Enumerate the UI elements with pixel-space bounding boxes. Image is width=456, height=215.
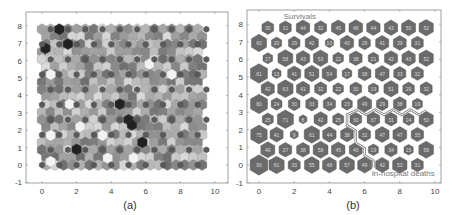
hit-count-label: 58 (318, 147, 324, 153)
hit-count-label: 47 (397, 132, 403, 138)
hit-count-label: 31 (415, 40, 421, 46)
hit-count-label: 38 (397, 101, 403, 107)
x-tick-label: 8 (398, 187, 403, 196)
map-unit-node (169, 147, 175, 153)
hit-count-label: 38 (353, 56, 359, 62)
map-unit-node (169, 117, 175, 123)
hit-count-label: 43 (406, 56, 412, 62)
hit-count-label: 41 (291, 71, 297, 77)
map-unit-node (160, 71, 166, 77)
hit-count-label: 25 (335, 117, 341, 123)
hit-count-label: 52 (423, 25, 429, 31)
y-tick-label: 6 (18, 57, 23, 66)
hit-count-label: 38 (300, 147, 306, 153)
hit-count-label: 24 (274, 101, 280, 107)
hit-count-label: 17 (265, 56, 271, 62)
map-unit-node (195, 162, 201, 168)
map-unit-node (143, 132, 149, 138)
y-tick-label: 0 (18, 161, 23, 170)
y-tick-label: 0 (239, 161, 244, 170)
y-tick-label: 4 (239, 91, 244, 100)
map-unit-node (186, 147, 192, 153)
hit-count-label: 19 (371, 86, 377, 92)
map-unit-node (204, 56, 210, 62)
map-unit-node (57, 71, 63, 77)
map-unit-node (126, 132, 132, 138)
map-unit-node (57, 41, 63, 47)
hit-count-label: 21 (371, 56, 377, 62)
hit-count-label: 57 (344, 162, 350, 168)
hit-count-label: 54 (327, 71, 333, 77)
panel-b-hitmap: -10123456780246810(b)3031443245464443505… (228, 0, 456, 215)
map-unit-node (204, 117, 210, 123)
hit-count-label: 33 (291, 162, 297, 168)
map-unit-node (117, 56, 123, 62)
map-unit-node (91, 101, 97, 107)
map-unit-node (82, 26, 88, 32)
map-unit-node (204, 147, 210, 153)
map-unit-node (134, 86, 140, 92)
hit-count-label: 25 (265, 117, 271, 123)
map-unit-node (82, 117, 88, 123)
hit-count-label: 52 (423, 56, 429, 62)
hit-count-label: 29 (362, 40, 368, 46)
hit-count-label: 22 (335, 56, 341, 62)
hit-count-label: 30 (353, 117, 359, 123)
map-unit-node (48, 26, 54, 32)
hit-count-label: 9 (293, 132, 296, 138)
hit-count-label: 44 (327, 132, 333, 138)
hit-count-label: 43 (388, 25, 394, 31)
map-unit-node (126, 71, 132, 77)
hit-count-label: 53 (397, 162, 403, 168)
map-unit-node (74, 132, 80, 138)
map-unit-node (48, 147, 54, 153)
hit-count-label: 31 (388, 117, 394, 123)
map-unit-node (117, 117, 123, 123)
map-unit-node (126, 41, 132, 47)
hit-count-label: 61 (274, 162, 280, 168)
hit-count-label: 32 (318, 86, 324, 92)
map-unit-node (152, 26, 158, 32)
hit-count-label: 42 (265, 86, 271, 92)
map-unit-node (160, 41, 166, 47)
map-unit-node (178, 101, 184, 107)
map-unit-node (117, 26, 123, 32)
y-tick-label: 1 (18, 144, 23, 153)
y-tick-label: 2 (18, 126, 23, 135)
hit-count-label: 51 (309, 71, 315, 77)
hit-count-label: 10 (327, 40, 333, 46)
map-unit-node (178, 162, 184, 168)
map-unit-node (39, 71, 45, 77)
map-unit-node (152, 56, 158, 62)
map-unit-node (74, 162, 80, 168)
hit-count-label: 38 (344, 132, 350, 138)
map-unit-node (126, 162, 132, 168)
map-unit-node (117, 147, 123, 153)
hit-count-label: 56 (423, 147, 429, 153)
hit-count-label: 29 (291, 40, 297, 46)
y-tick-label: 7 (239, 38, 244, 47)
x-tick-label: 6 (144, 187, 149, 196)
hit-count-label: 34 (327, 101, 333, 107)
map-unit-node (57, 132, 63, 138)
hit-count-label: 49 (265, 147, 271, 153)
map-unit-node (48, 56, 54, 62)
panel-caption: (a) (123, 199, 136, 211)
hit-count-label: 24 (406, 117, 412, 123)
hit-count-label: 48 (327, 162, 333, 168)
map-unit-node (91, 132, 97, 138)
map-unit-node (39, 132, 45, 138)
map-unit-node (186, 56, 192, 62)
hit-count-label: 53 (318, 56, 324, 62)
hit-count-label: 23 (344, 101, 350, 107)
map-unit-node (204, 86, 210, 92)
y-tick-label: 6 (239, 55, 244, 64)
map-unit-node (186, 86, 192, 92)
hit-count-label: 41 (300, 86, 306, 92)
hit-count-label: 37 (371, 117, 377, 123)
hit-count-label: 43 (300, 56, 306, 62)
map-unit-node (169, 86, 175, 92)
hit-count-label: 32 (415, 71, 421, 77)
map-unit-node (82, 86, 88, 92)
hit-count-label: 29 (379, 101, 385, 107)
